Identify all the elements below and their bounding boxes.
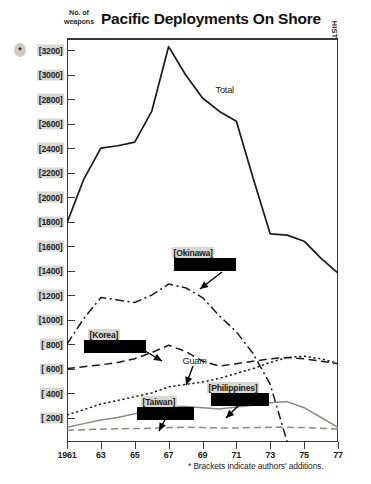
x-axis-label: 1961 — [57, 450, 76, 460]
y-axis-label: [ 800] — [40, 339, 64, 350]
redaction-bar-taiwan — [137, 407, 194, 420]
y-axis-label: [ 600] — [40, 363, 64, 374]
x-axis-tick — [236, 442, 237, 449]
footnote: * Brackets indicate authors' additions. — [188, 461, 324, 471]
series-line-total — [67, 47, 338, 273]
y-axis-label: [1400] — [37, 265, 64, 276]
x-axis-tick — [67, 442, 68, 449]
y-axis-label: [1200] — [37, 290, 64, 301]
redaction-bar-korea — [84, 340, 146, 353]
x-axis-tick — [304, 442, 305, 449]
redaction-bar-okinawa — [174, 258, 236, 271]
chart-title: Pacific Deployments On Shore — [86, 10, 336, 28]
x-axis-label: 67 — [164, 450, 174, 460]
y-axis-label: [2400] — [37, 143, 64, 154]
x-axis-tick — [135, 442, 136, 449]
y-axis-label: [2000] — [37, 192, 64, 203]
y-axis-label: [3200] — [37, 45, 64, 56]
y-axis-label: [3000] — [37, 69, 64, 80]
y-axis-label: [2600] — [37, 118, 64, 129]
y-axis-label: [ 200] — [40, 412, 64, 423]
x-axis-tick — [169, 442, 170, 449]
series-label-korea: [Korea] — [88, 329, 120, 340]
series-label-taiwan: [Taiwan] — [141, 396, 177, 407]
x-axis-label: 63 — [96, 450, 106, 460]
y-axis-label: [2200] — [37, 167, 64, 178]
series-label-guam: Guam — [181, 355, 208, 366]
x-axis-tick — [101, 442, 102, 449]
y-axis-label: [1800] — [37, 216, 64, 227]
y-axis-label: [2800] — [37, 94, 64, 105]
x-axis-label: 71 — [232, 450, 242, 460]
y-axis-label: [1600] — [37, 241, 64, 252]
redaction-bar-philippines — [211, 393, 269, 406]
chart-page: No. of weapons Pacific Deployments On Sh… — [0, 0, 371, 484]
x-axis-label: 69 — [198, 450, 208, 460]
x-axis-tick — [270, 442, 271, 449]
series-line-taiwan — [67, 402, 338, 428]
series-label-okinawa: [Okinawa] — [172, 247, 214, 258]
x-axis-label: 75 — [299, 450, 309, 460]
x-axis-label: 65 — [130, 450, 140, 460]
x-axis-label: 73 — [265, 450, 275, 460]
x-axis-label: 77 — [333, 450, 343, 460]
y-axis-label: [ 400] — [40, 388, 64, 399]
x-axis-tick — [203, 442, 204, 449]
series-label-philippines: [Philippines] — [207, 382, 259, 393]
series-label-total: Total — [214, 84, 235, 95]
x-axis-tick — [338, 442, 339, 449]
y-axis-label: [1000] — [37, 314, 64, 325]
series-line-philippines — [67, 427, 338, 430]
footnote-asterisk-marker: * — [14, 43, 26, 57]
plot-lines — [67, 38, 338, 442]
